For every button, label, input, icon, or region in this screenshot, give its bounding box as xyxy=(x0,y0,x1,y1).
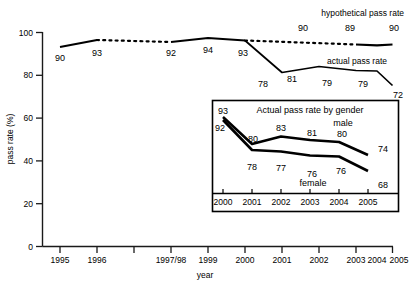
data-label-2000: 93 xyxy=(238,48,248,58)
y-axis-title: pass rate (%) xyxy=(5,114,15,165)
x-tick-label-2002: 2002 xyxy=(310,255,329,265)
x-axis-title: year xyxy=(197,270,214,280)
hypothetical-series-label: hypothetical pass rate xyxy=(321,8,404,18)
inset-label-female-2001: 78 xyxy=(247,162,257,172)
inset-x-label-2004: 2004 xyxy=(330,197,349,207)
y-tick-label-0: 0 xyxy=(28,242,33,252)
data-label-actual-2004: 79 xyxy=(358,79,368,89)
data-label-1999: 94 xyxy=(203,45,213,55)
x-tick-label-2003: 2003 xyxy=(347,255,366,265)
data-label-actual-2001: 78 xyxy=(258,79,268,89)
pass-rate-line-chart: 100 80 60 40 20 0 pass rate (%) 1995 199… xyxy=(0,0,410,289)
inset-label-female-2005: 68 xyxy=(378,180,388,190)
data-label-1996: 93 xyxy=(92,48,102,58)
y-tick-label-40: 40 xyxy=(24,156,34,166)
actual-series-label: actual pass rate xyxy=(327,56,387,66)
inset-x-label-2000: 2000 xyxy=(214,197,233,207)
data-label-hyp-2003: 90 xyxy=(298,23,308,33)
inset-label-male-2004: 80 xyxy=(337,129,347,139)
x-tick-label-2001: 2001 xyxy=(273,255,292,265)
data-label-actual-2002: 81 xyxy=(287,74,297,84)
data-label-1997-98: 92 xyxy=(166,48,176,58)
inset-title: Actual pass rate by gender xyxy=(256,105,363,115)
inset-label-male-2005: 74 xyxy=(378,144,388,154)
chart-container: 100 80 60 40 20 0 pass rate (%) 1995 199… xyxy=(0,0,410,289)
x-tick-label-2005: 2005 xyxy=(390,255,409,265)
data-label-1995: 90 xyxy=(55,53,65,63)
line-segment-hypothetical-solid xyxy=(356,45,393,46)
data-label-hyp-2005: 90 xyxy=(389,23,399,33)
data-label-actual-2003: 79 xyxy=(322,78,332,88)
inset-panel: Actual pass rate by gender 93 80 83 81 8… xyxy=(213,101,399,212)
inset-x-label-2002: 2002 xyxy=(272,197,291,207)
inset-label-male-2000: 93 xyxy=(218,106,228,116)
y-tick-label-20: 20 xyxy=(24,199,34,209)
inset-label-male-2002: 83 xyxy=(276,123,286,133)
x-tick-label-1996: 1996 xyxy=(88,255,107,265)
inset-label-male-2001: 80 xyxy=(248,134,258,144)
x-tick-label-1997-98: 1997/98 xyxy=(156,255,187,265)
inset-x-label-2001: 2001 xyxy=(243,197,262,207)
inset-label-male-2003: 81 xyxy=(307,128,317,138)
y-tick-label-80: 80 xyxy=(24,70,34,80)
y-tick-label-100: 100 xyxy=(19,28,33,38)
inset-series-label-male: male xyxy=(333,118,353,128)
x-tick-label-2000: 2000 xyxy=(236,255,255,265)
data-label-hyp-2004: 89 xyxy=(345,23,355,33)
data-label-actual-2005: 72 xyxy=(393,90,403,100)
y-tick-label-60: 60 xyxy=(24,113,34,123)
x-tick-label-1999: 1999 xyxy=(199,255,218,265)
x-tick-label-2004: 2004 xyxy=(368,255,387,265)
inset-x-label-2003: 2003 xyxy=(301,197,320,207)
x-tick-label-1995: 1995 xyxy=(51,255,70,265)
inset-label-female-2000: 92 xyxy=(215,123,225,133)
inset-label-female-2004: 76 xyxy=(336,166,346,176)
inset-label-female-2002: 77 xyxy=(276,163,286,173)
inset-x-label-2005: 2005 xyxy=(359,197,378,207)
inset-series-label-female: female xyxy=(299,178,326,188)
